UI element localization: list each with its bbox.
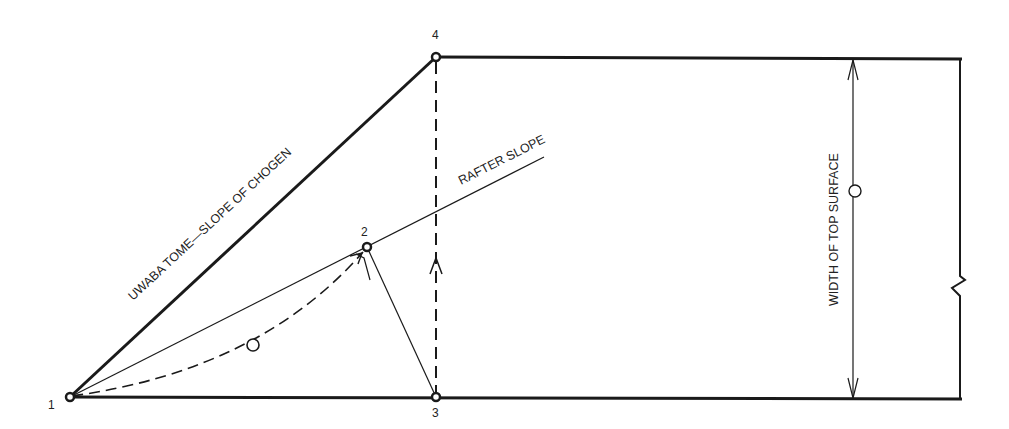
arc-dimension-marker xyxy=(247,339,259,351)
vertical-dashed-line xyxy=(430,57,442,397)
base-line xyxy=(70,397,962,399)
width-top-surface-label: WIDTH OF TOP SURFACE xyxy=(827,153,841,306)
rafter-slope-line xyxy=(70,157,544,397)
diagram-canvas: 1 2 3 4 UWABA TOME—SLOPE OF CHOGEN RAFTE… xyxy=(0,0,1009,429)
point-3-label: 3 xyxy=(432,406,439,420)
width-dimension-marker xyxy=(849,185,861,197)
perpendicular-line xyxy=(356,247,436,397)
point-4: 4 xyxy=(432,28,440,61)
point-3: 3 xyxy=(432,393,440,420)
right-edge-break-line xyxy=(952,59,965,399)
width-dimension xyxy=(848,60,861,398)
point-4-label: 4 xyxy=(432,28,439,42)
point-2: 2 xyxy=(361,225,371,251)
point-1: 1 xyxy=(48,393,74,412)
point-2-label: 2 xyxy=(361,225,368,239)
chogen-slope-label: UWABA TOME—SLOPE OF CHOGEN xyxy=(126,145,295,303)
top-line xyxy=(436,57,962,59)
rafter-slope-label: RAFTER SLOPE xyxy=(456,132,547,187)
point-1-label: 1 xyxy=(48,398,55,412)
